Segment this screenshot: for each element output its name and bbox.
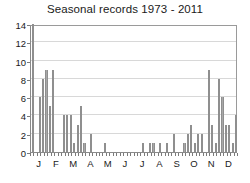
x-tick-mark [154,153,155,156]
x-tick-mark [206,153,207,156]
x-tick-mark [89,153,90,156]
bar [211,125,213,152]
x-tick-mark [223,153,224,156]
y-tick-label: 14 [15,21,26,30]
bar [232,143,234,152]
bar [173,134,175,152]
bar [73,143,75,152]
x-tick-mark [58,153,59,156]
x-tick-mark [203,153,204,156]
bar [32,24,34,152]
x-tick-label: M [69,158,77,169]
bar [80,106,82,152]
x-tick-label: O [190,158,197,169]
x-tick-mark [165,153,166,156]
x-tick-mark [182,153,183,156]
x-tick-mark [175,153,176,156]
x-tick-mark [134,153,135,156]
x-tick-mark [109,153,110,156]
x-tick-mark [189,153,190,156]
y-tick-label: 0 [21,149,26,158]
bar [183,143,185,152]
x-tick-label: J [140,158,145,169]
x-tick-mark [65,153,66,156]
x-tick-mark [140,153,141,156]
x-tick-mark [37,153,38,156]
bar [235,115,237,152]
x-tick-label: J [36,158,41,169]
x-tick-mark [209,153,210,156]
bar [149,143,151,152]
x-axis: JFMAMJJASOND [30,153,237,181]
x-tick-mark [120,153,121,156]
x-tick-mark [71,153,72,156]
x-tick-mark [158,153,159,156]
x-tick-mark [192,153,193,156]
x-tick-mark [96,153,97,156]
bar [90,134,92,152]
x-tick-mark [220,153,221,156]
x-tick-mark [199,153,200,156]
x-tick-mark [137,153,138,156]
bar [228,125,230,152]
bar [39,97,41,152]
bar [66,115,68,152]
y-tick-label: 10 [15,57,26,66]
x-tick-mark [40,153,41,156]
bar [49,106,51,152]
x-tick-mark [68,153,69,156]
x-tick-mark [230,153,231,156]
y-tick-label: 6 [21,94,26,103]
x-tick-mark [116,153,117,156]
x-tick-mark [147,153,148,156]
bar [225,125,227,152]
x-tick-label: A [156,158,162,169]
x-tick-mark [196,153,197,156]
bar [42,79,44,152]
bar [52,70,54,152]
y-tick-label: 8 [21,75,26,84]
x-tick-mark [123,153,124,156]
x-tick-mark [82,153,83,156]
x-tick-mark [75,153,76,156]
x-tick-label: A [87,158,93,169]
bar [218,79,220,152]
bar [152,143,154,152]
x-tick-mark [185,153,186,156]
y-axis: 02468101214 [0,25,30,153]
y-tick-label: 12 [15,39,26,48]
y-tick-label: 2 [21,130,26,139]
x-tick-mark [161,153,162,156]
x-tick-mark [51,153,52,156]
x-tick-mark [171,153,172,156]
bar [194,143,196,152]
bar [70,115,72,152]
bar [142,143,144,152]
x-tick-mark [92,153,93,156]
x-tick-mark [106,153,107,156]
x-tick-mark [130,153,131,156]
bar [166,143,168,152]
bar [197,134,199,152]
bar [221,97,223,152]
x-tick-mark [144,153,145,156]
bar [208,70,210,152]
x-tick-mark [127,153,128,156]
x-tick-mark [168,153,169,156]
x-tick-mark [216,153,217,156]
x-tick-label: J [123,158,128,169]
x-tick-mark [102,153,103,156]
plot-area [30,25,237,153]
x-tick-mark [85,153,86,156]
bar [83,143,85,152]
x-tick-mark [213,153,214,156]
x-tick-mark [227,153,228,156]
bar [159,143,161,152]
x-tick-mark [178,153,179,156]
chart-figure: Seasonal records 1973 - 2011 02468101214… [0,0,250,183]
bar [190,125,192,152]
x-tick-label: N [208,158,215,169]
x-tick-mark [33,153,34,156]
bar [63,115,65,152]
x-tick-label: F [53,158,59,169]
